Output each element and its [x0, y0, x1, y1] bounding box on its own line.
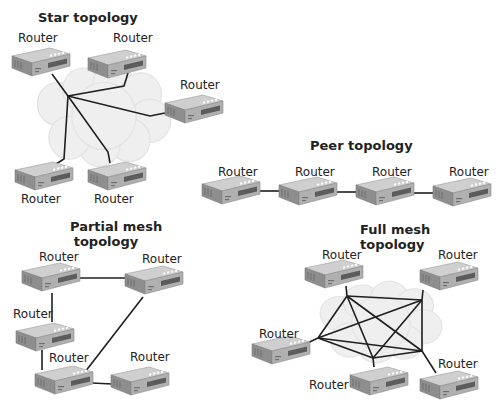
- partial-router-5: [111, 367, 169, 395]
- router-label: Router: [130, 350, 170, 364]
- router-label: Router: [309, 378, 349, 392]
- peer-router-4: [433, 178, 491, 206]
- star-router-3: [165, 95, 223, 123]
- router-label: Router: [438, 357, 478, 371]
- full-router-5: [420, 371, 478, 399]
- peer-router-3: [356, 177, 414, 205]
- full-router-4: [350, 367, 408, 395]
- router-label: Router: [295, 165, 335, 179]
- partial-mesh-title-line2: topology: [70, 234, 142, 249]
- partial-router-3: [16, 323, 74, 351]
- full-router-1: [305, 260, 363, 288]
- star-cloud: [37, 63, 170, 166]
- router-label: Router: [39, 250, 79, 264]
- full-mesh-title: Full mesh topology: [360, 222, 424, 252]
- star-topology-title: Star topology: [38, 10, 138, 25]
- router-label: Router: [449, 165, 489, 179]
- router-label: Router: [372, 165, 412, 179]
- full-mesh-title-line1: Full mesh: [360, 222, 424, 237]
- router-label: Router: [21, 192, 61, 206]
- peer-topology: [202, 176, 491, 206]
- router-label: Router: [94, 192, 134, 206]
- router-label: Router: [322, 248, 362, 262]
- partial-mesh-title: Partial mesh topology: [70, 219, 142, 249]
- full-cloud: [320, 281, 442, 363]
- router-label: Router: [49, 351, 89, 365]
- router-label: Router: [18, 31, 58, 45]
- peer-topology-title: Peer topology: [310, 138, 413, 153]
- full-mesh-title-line2: topology: [360, 237, 424, 252]
- partial-router-1: [22, 263, 80, 291]
- partial-router-2: [125, 266, 183, 294]
- router-label: Router: [13, 307, 53, 321]
- peer-router-1: [202, 176, 260, 204]
- router-label: Router: [218, 165, 258, 179]
- partial-mesh-title-line1: Partial mesh: [70, 219, 142, 234]
- partial-mesh-topology: [16, 263, 183, 395]
- router-label: Router: [180, 78, 220, 92]
- router-label: Router: [113, 31, 153, 45]
- full-router-2: [420, 262, 478, 290]
- router-label: Router: [438, 248, 478, 262]
- star-topology: [12, 48, 223, 190]
- router-label: Router: [259, 327, 299, 341]
- star-router-1: [12, 48, 70, 76]
- star-router-4: [15, 162, 73, 190]
- peer-router-2: [279, 177, 337, 205]
- router-label: Router: [142, 252, 182, 266]
- partial-router-4: [35, 366, 93, 394]
